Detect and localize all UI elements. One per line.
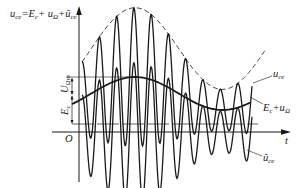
waveform-diagram: uce=Ec+ uΩ+ũce uce Ec+uΩ ũce t O UΩm Ec <box>0 0 298 188</box>
u-omega-m-arrow-down-icon <box>71 91 74 95</box>
ec-plus-u-omega-label: Ec+uΩ <box>262 102 290 115</box>
t-axis-label: t <box>285 135 289 146</box>
diagram-canvas: uce=Ec+ uΩ+ũce uce Ec+uΩ ũce t O UΩm Ec <box>0 0 298 188</box>
origin-label: O <box>65 133 73 144</box>
e-c-arrow-up-icon <box>71 96 74 100</box>
e-c-arrow-down-icon <box>71 120 74 124</box>
x-axis-arrow-icon <box>281 129 291 135</box>
u-tilde-ce-leader-line <box>247 150 262 156</box>
u-ce-leader-line <box>253 76 272 83</box>
e-c-label: Ec <box>59 105 72 116</box>
u-tilde-ce-label: ũce <box>263 152 274 165</box>
u-ce-label: uce <box>273 68 284 81</box>
y-axis-arrow-icon <box>76 6 82 15</box>
u-omega-m-label: UΩm <box>59 75 72 93</box>
y-axis-formula-label: uce=Ec+ uΩ+ũce <box>10 8 77 21</box>
ec-u-omega-leader-line <box>250 97 263 104</box>
